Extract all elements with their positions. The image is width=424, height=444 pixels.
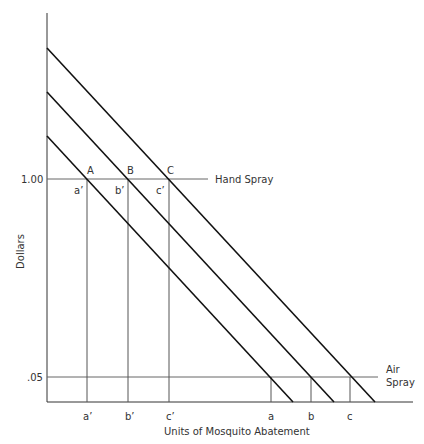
x-tick-a-prime: a’ (83, 411, 92, 423)
x-tick-c: c (347, 411, 353, 423)
point-b-label: B (127, 165, 134, 177)
chart-canvas (0, 0, 424, 444)
x-tick-a: a (268, 411, 274, 423)
inner-b-prime-label: b’ (115, 185, 125, 197)
demand-curve-3 (47, 48, 375, 402)
inner-c-prime-label: c’ (156, 185, 165, 197)
point-c-label: C (167, 165, 174, 177)
demand-curve-2 (47, 92, 334, 402)
x-tick-c-prime: c’ (166, 411, 175, 423)
x-tick-b-prime: b’ (125, 411, 135, 423)
x-axis-label: Units of Mosquito Abatement (164, 426, 310, 438)
y-tick-05: .05 (27, 372, 43, 384)
hand-spray-label: Hand Spray (215, 174, 273, 186)
air-spray-label-2: Spray (386, 377, 415, 389)
air-spray-label-1: Air (386, 364, 400, 376)
point-a-label: A (87, 165, 94, 177)
x-tick-b: b (308, 411, 314, 423)
inner-a-prime-label: a’ (74, 185, 83, 197)
y-tick-1-00: 1.00 (21, 174, 43, 186)
y-axis-label: Dollars (15, 234, 26, 270)
